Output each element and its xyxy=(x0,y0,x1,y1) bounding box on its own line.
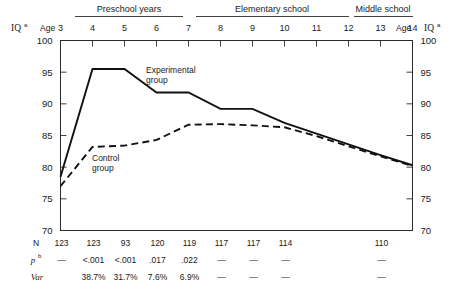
y-tick-label-right-95: 95 xyxy=(421,67,432,78)
iq-label-right: IQ xyxy=(424,23,434,33)
x-tick-label-age-6: 6 xyxy=(154,23,159,33)
stats-cell-var-age-13: — xyxy=(377,272,386,282)
y-tick-label-right-70: 70 xyxy=(421,225,432,236)
stats-cell-var-age-8: — xyxy=(217,272,226,282)
annotation-experimental: Experimental group xyxy=(146,65,196,85)
y-tick-label-left-85: 85 xyxy=(42,130,53,141)
stats-row-key-var: Var xyxy=(31,272,44,282)
y-tick-label-left-75: 75 xyxy=(42,193,53,204)
stats-cell-var-age-5: 31.7% xyxy=(113,272,138,282)
stats-cell-n-age-6: 120 xyxy=(150,238,164,248)
header-band-middle: Middle school xyxy=(354,4,413,17)
x-tick-label-age-12: 12 xyxy=(343,23,353,33)
stats-table: N p b Var 12312393120119117117114110—<.0… xyxy=(30,238,389,282)
x-tick-label-age-13: 13 xyxy=(375,23,385,33)
stats-row-key-n: N xyxy=(33,238,39,248)
x-tick-label-age-4: 4 xyxy=(90,23,95,33)
stats-cell-n-age-7: 119 xyxy=(183,238,197,248)
band-label-middle: Middle school xyxy=(355,4,410,14)
x-tick-label-age-10: 10 xyxy=(279,23,289,33)
x-tick-label-age-5: 5 xyxy=(122,23,127,33)
stats-cell-p-age-6: .017 xyxy=(149,255,166,265)
iq-caption-right: IQ a xyxy=(424,22,441,33)
x-tick-label-age-14: 14 xyxy=(407,23,417,33)
stats-row-key-p-superscript: b xyxy=(38,253,42,259)
iq-label-left: IQ xyxy=(11,23,21,33)
annotation-experimental-line2: group xyxy=(146,75,168,85)
stats-cell-p-age-4: <.001 xyxy=(83,255,105,265)
age-word-left: Age xyxy=(40,23,55,33)
x-tick-label-age-11: 11 xyxy=(312,23,321,33)
annotation-experimental-line1: Experimental xyxy=(146,65,196,75)
y-tick-label-right-80: 80 xyxy=(421,162,432,173)
stats-cell-p-age-7: .022 xyxy=(181,255,198,265)
y-axis-labels-left: 100959085807570 xyxy=(37,35,53,236)
iq-caption-left: IQ a xyxy=(11,22,28,33)
iq-superscript-left: a xyxy=(24,22,28,28)
stats-cell-var-age-6: 7.6% xyxy=(148,272,168,282)
annotation-control: Control group xyxy=(92,153,120,173)
x-tick-label-age-7: 7 xyxy=(186,23,191,33)
stats-cell-n-age-8: 117 xyxy=(215,238,229,248)
band-label-preschool: Preschool years xyxy=(97,4,162,14)
annotation-control-line2: group xyxy=(92,163,114,173)
stats-cell-n-age-10: 114 xyxy=(279,238,293,248)
stats-cell-n-age-5: 93 xyxy=(121,238,131,248)
stats-cell-p-age-10: — xyxy=(281,255,290,265)
stats-cell-n-age-4: 123 xyxy=(86,238,100,248)
annotation-control-line1: Control xyxy=(92,153,120,163)
stats-cell-var-age-9: — xyxy=(249,272,258,282)
iq-growth-curve-figure: Preschool years Elementary school Middle… xyxy=(0,0,452,297)
y-tick-label-right-90: 90 xyxy=(421,98,432,109)
stats-cell-var-age-4: 38.7% xyxy=(81,272,106,282)
stats-table-cells: 12312393120119117117114110—<.001<.001.01… xyxy=(54,238,388,282)
y-axis-labels-right: 100959085807570 xyxy=(421,35,437,236)
stats-cell-p-age-9: — xyxy=(249,255,258,265)
header-band-preschool: Preschool years xyxy=(75,4,183,17)
y-tick-label-left-95: 95 xyxy=(42,67,53,78)
y-tick-label-left-70: 70 xyxy=(42,225,53,236)
y-tick-label-left-90: 90 xyxy=(42,98,53,109)
header-band-elementary: Elementary school xyxy=(196,4,349,17)
x-tick-label-age-9: 9 xyxy=(250,23,255,33)
y-tick-label-left-100: 100 xyxy=(37,35,53,46)
stats-row-key-p-group: p b xyxy=(30,253,42,265)
chart-canvas: Preschool years Elementary school Middle… xyxy=(0,0,452,297)
y-tick-label-right-85: 85 xyxy=(421,130,432,141)
band-label-elementary: Elementary school xyxy=(235,4,309,14)
x-tick-label-age-8: 8 xyxy=(218,23,223,33)
stats-cell-p-age-13: — xyxy=(377,255,386,265)
stats-cell-n-age-3: 123 xyxy=(54,238,68,248)
y-tick-label-right-100: 100 xyxy=(421,35,437,46)
y-tick-label-left-80: 80 xyxy=(42,162,53,173)
y-tick-label-right-75: 75 xyxy=(421,193,432,204)
stats-row-key-p: p xyxy=(30,255,36,265)
stats-cell-var-age-10: — xyxy=(281,272,290,282)
x-tick-label-age-3: 3 xyxy=(58,23,63,33)
stats-cell-var-age-7: 6.9% xyxy=(180,272,200,282)
stats-cell-p-age-8: — xyxy=(217,255,226,265)
stats-cell-p-age-3: — xyxy=(57,255,66,265)
x-axis-ticks xyxy=(61,41,413,47)
stats-cell-n-age-9: 117 xyxy=(247,238,261,248)
x-axis-tick-labels: 34567891011121314 xyxy=(58,23,418,33)
iq-superscript-right: a xyxy=(437,22,441,28)
stats-cell-p-age-5: <.001 xyxy=(115,255,137,265)
stats-cell-n-age-13: 110 xyxy=(375,238,389,248)
